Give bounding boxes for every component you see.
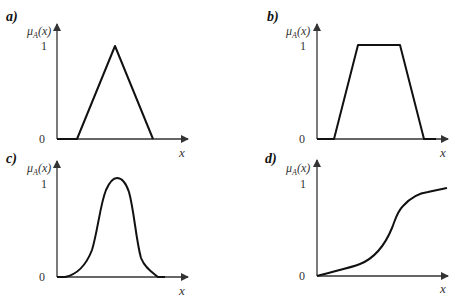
- tick-zero-d: 0: [299, 269, 305, 283]
- panel-a-triangular: a) μA(x) 1 0 x: [6, 9, 188, 160]
- y-axis-label-d: μA(x): [285, 161, 310, 177]
- tick-zero-a: 0: [39, 132, 45, 146]
- y-axis-label-b: μA(x): [285, 24, 310, 40]
- panel-label-a: a): [6, 9, 18, 25]
- figure-svg: a) μA(x) 1 0 x b) μA(x) 1 0 x c) μA(x) 1…: [0, 0, 459, 305]
- trapezoidal-curve: [317, 45, 436, 139]
- tick-zero-c: 0: [39, 270, 45, 284]
- tick-zero-b: 0: [299, 132, 305, 146]
- panel-label-d: d): [265, 151, 277, 167]
- panel-b-trapezoidal: b) μA(x) 1 0 x: [267, 9, 448, 160]
- tick-one-a: 1: [41, 39, 47, 53]
- panel-label-b: b): [267, 9, 279, 25]
- x-axis-label-d: x: [439, 281, 446, 296]
- tick-one-c: 1: [41, 177, 47, 191]
- x-axis-label-a: x: [178, 145, 185, 160]
- y-axis-label-c: μA(x): [26, 161, 51, 177]
- gaussian-curve: [57, 178, 165, 277]
- x-axis-label-b: x: [439, 145, 446, 160]
- panel-c-gaussian: c) μA(x) 1 0 x: [6, 151, 188, 298]
- sigmoidal-curve: [317, 188, 447, 276]
- y-axis-label-a: μA(x): [26, 24, 51, 40]
- tick-one-b: 1: [300, 39, 306, 53]
- panel-d-sigmoidal: d) μA(x) 1 0 x: [265, 151, 448, 296]
- tick-one-d: 1: [300, 177, 306, 191]
- triangular-curve: [57, 46, 153, 139]
- x-axis-label-c: x: [178, 283, 185, 298]
- panel-label-c: c): [6, 151, 17, 167]
- membership-functions-figure: a) μA(x) 1 0 x b) μA(x) 1 0 x c) μA(x) 1…: [0, 0, 459, 305]
